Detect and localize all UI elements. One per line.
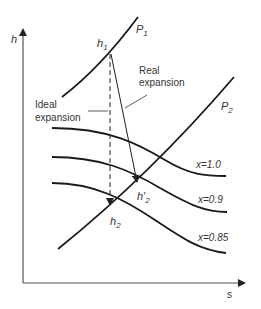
real-expansion-label-line1: Real [139,65,160,76]
isobar-p1 [62,17,138,97]
point-h1-label: h1 [97,37,108,52]
ideal-expansion-label-line2: expansion [35,112,81,123]
quality-label-x1-0: x=1.0 [195,159,221,170]
ideal-expansion-label-line1: Ideal [35,99,57,110]
y-axis-label: h [11,33,17,45]
real-expansion-arrow [111,54,137,182]
real-expansion-label-line2: expansion [139,77,185,88]
quality-label-x0-85: x=0.85 [197,232,229,243]
quality-label-x0-9: x=0.9 [197,194,223,205]
point-h2-prime-label: h′2 [137,190,150,205]
x-axis-label: s [227,289,232,300]
h-s-diagram: h s P1 P2 x=1.0 x=0.9 x=0.85 h1 h2 h′2 I… [0,0,261,309]
real-expansion-leader [125,95,147,108]
isobar-p2-label: P2 [221,100,233,115]
point-h2-label: h2 [110,215,121,230]
isobar-p1-label: P1 [136,23,148,38]
